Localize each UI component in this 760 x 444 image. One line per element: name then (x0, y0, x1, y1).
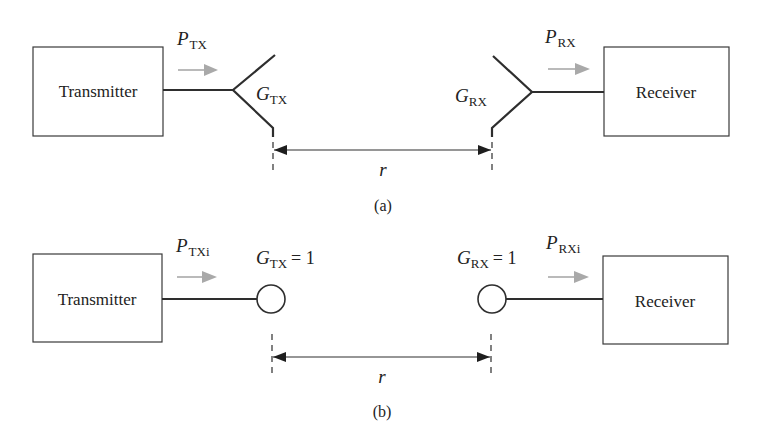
rx-power-label: PRX (544, 26, 576, 50)
arrowhead-left-icon (273, 352, 286, 362)
panel-a-caption: (a) (374, 197, 392, 215)
arrowhead-right-icon (478, 145, 491, 155)
tx-power-flow-arrow-icon (178, 64, 218, 76)
panel-b: Transmitter PTXi GTX= 1 Receiver PRXi (33, 232, 728, 421)
transmitter-label: Transmitter (58, 290, 137, 309)
tx-power-label: PTX (176, 28, 208, 52)
distance-label: r (378, 366, 386, 387)
link-budget-diagram: Transmitter PTX GTX Receiver PRX G (0, 0, 760, 444)
receiver-label: Receiver (636, 83, 697, 102)
rx-isotropic-antenna-icon (478, 285, 506, 313)
rx-horn-antenna-icon (492, 56, 532, 137)
arrowhead-left-icon (274, 145, 287, 155)
rx-gain-label: GRX (455, 85, 487, 109)
tx-power-flow-arrow-icon (177, 271, 217, 283)
rx-power-flow-arrow-icon (548, 271, 589, 283)
receiver-block-b: Receiver (603, 256, 728, 344)
transmitter-block-a: Transmitter (33, 47, 163, 136)
distance-label: r (379, 159, 387, 180)
tx-gain-label: GTX (256, 83, 288, 107)
panel-a: Transmitter PTX GTX Receiver PRX G (33, 26, 729, 215)
panel-b-caption: (b) (373, 403, 392, 421)
tx-power-label: PTXi (175, 235, 210, 259)
rx-power-flow-arrow-icon (548, 63, 590, 75)
arrowhead-right-icon (477, 352, 490, 362)
transmitter-block-b: Transmitter (33, 254, 162, 342)
rx-gain-label: GRX= 1 (457, 247, 516, 271)
receiver-label: Receiver (635, 292, 696, 311)
rx-power-label: PRXi (545, 232, 581, 256)
tx-gain-label: GTX= 1 (256, 247, 315, 271)
receiver-block-a: Receiver (604, 47, 729, 136)
transmitter-label: Transmitter (59, 82, 138, 101)
tx-isotropic-antenna-icon (257, 285, 285, 313)
